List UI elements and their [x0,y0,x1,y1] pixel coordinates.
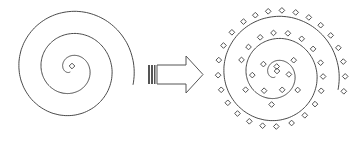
diamond-marker [318,60,324,66]
diamond-marker [235,111,241,117]
diamond-marker [239,57,245,63]
diamond-marker [225,100,231,106]
diamond-marker [246,44,252,50]
diamond-marker [273,124,279,130]
diamond-marker [293,10,299,16]
diamond-marker [279,8,285,14]
diamond-marker [306,15,312,21]
diamond-marker [215,72,221,78]
diamond-marker [328,33,334,39]
diamond-marker [265,8,271,14]
diamond-marker [216,57,222,63]
diamond-marker [241,19,247,25]
transform-arrow [148,56,203,93]
diamond-marker [279,87,285,93]
diamond-marker [320,74,326,80]
diagram-canvas [0,0,355,147]
diamond-marker [291,57,297,63]
diamond-marker [299,36,305,42]
diamond-marker [302,112,308,118]
diamond-marker [69,63,75,69]
diamond-marker [336,45,342,51]
plain-spiral [19,11,134,115]
spiral-curve [19,11,134,115]
diamond-marker [218,87,224,93]
diamond-marker [261,88,267,94]
diamond-marker [342,74,348,80]
diamond-marker [229,29,235,35]
diamond-marker [243,87,249,93]
diamond-marker [249,72,255,78]
diamond-marker [252,12,258,18]
diamond-marker [285,30,291,36]
diamond-marker [310,46,316,52]
diamond-marker [221,43,227,49]
diamond-marker [246,118,252,124]
diamond-marker [271,30,277,36]
diamond-marker [340,59,346,65]
diamond-marker [341,88,347,94]
diamond-marker [318,22,324,28]
diamond-marker [257,34,263,40]
diamond-marker [295,87,301,93]
diamond-marker [269,102,275,108]
diamond-marker [261,61,267,67]
diamond-marker [312,101,318,107]
diamond-marker [286,72,292,78]
diamond-spiral [215,8,348,130]
diamond-marker [289,120,295,126]
spiral-curve [224,16,339,120]
diamond-marker [260,123,266,129]
diamond-marker [318,88,324,94]
